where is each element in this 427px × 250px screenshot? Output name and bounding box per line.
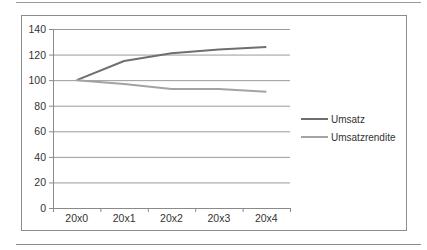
y-tick-label: 60 xyxy=(34,125,46,137)
x-tick-label: 20x3 xyxy=(208,212,231,224)
series-lines xyxy=(77,47,267,92)
series-line-umsatzrendite xyxy=(77,80,267,92)
x-tick-label: 20x1 xyxy=(113,212,136,224)
legend: UmsatzUmsatzrendite xyxy=(301,114,396,143)
y-tick-label: 140 xyxy=(28,23,46,35)
y-tick-label: 20 xyxy=(34,176,46,188)
y-tick-label: 80 xyxy=(34,100,46,112)
series-line-umsatz xyxy=(77,47,267,80)
x-tick-label: 20x4 xyxy=(255,212,278,224)
y-tick-label: 0 xyxy=(40,202,46,214)
y-axis: 020406080100120140 xyxy=(28,23,53,214)
bottom-rule xyxy=(16,244,421,245)
x-tick-label: 20x0 xyxy=(65,212,88,224)
x-axis: 20x020x120x220x320x4 xyxy=(53,208,291,224)
y-tick-label: 100 xyxy=(28,74,46,86)
x-tick-label: 20x2 xyxy=(160,212,183,224)
y-tick-label: 40 xyxy=(34,151,46,163)
y-tick-label: 120 xyxy=(28,49,46,61)
legend-label: Umsatz xyxy=(331,114,365,125)
legend-label: Umsatzrendite xyxy=(331,132,396,143)
line-chart: 020406080100120140 20x020x120x220x320x4 … xyxy=(0,0,427,250)
